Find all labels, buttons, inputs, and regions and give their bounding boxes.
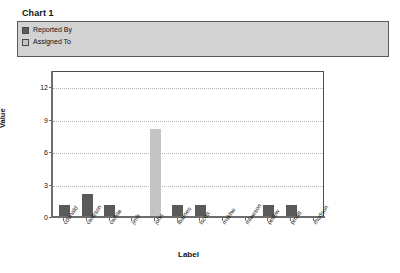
y-tick-label: 6 [44, 149, 48, 156]
legend-item-reported-by: Reported By [22, 26, 72, 34]
gridline [53, 121, 323, 122]
x-axis-title: Label [178, 250, 199, 259]
legend-label-assigned-to: Assigned To [33, 38, 71, 46]
y-axis-line [51, 71, 53, 218]
y-tick-label: 3 [44, 181, 48, 188]
y-tick-label: 12 [40, 84, 48, 91]
legend-item-assigned-to: Assigned To [22, 38, 71, 46]
chart-legend: Reported By Assigned To [17, 21, 389, 57]
y-tick-mark [49, 185, 52, 186]
plot-inner [53, 72, 323, 216]
gridline [53, 186, 323, 187]
plot-area [52, 71, 324, 217]
y-tick-mark [49, 152, 52, 153]
gridline [53, 88, 323, 89]
legend-swatch-reported-by [22, 27, 29, 34]
y-tick-label: 9 [44, 116, 48, 123]
bar [150, 129, 161, 216]
y-tick-label: 0 [44, 214, 48, 221]
y-tick-mark [49, 217, 52, 218]
y-axis-ticks: 036912 [28, 71, 48, 217]
gridline [53, 153, 323, 154]
y-tick-mark [49, 87, 52, 88]
y-tick-mark [49, 120, 52, 121]
legend-swatch-assigned-to [22, 39, 29, 46]
y-axis-title: Value [0, 108, 7, 128]
legend-label-reported-by: Reported By [33, 26, 72, 34]
page-title: Chart 1 [22, 8, 54, 18]
